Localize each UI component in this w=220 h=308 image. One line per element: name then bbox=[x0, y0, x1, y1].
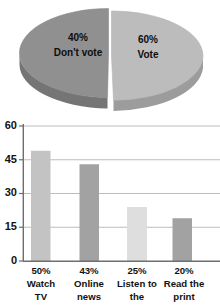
x-label-listen-line1: 25% bbox=[127, 265, 147, 276]
y-axis-tick-labels: 60 45 30 15 0 bbox=[5, 119, 17, 266]
pie-chart-svg: 60% Vote 40% Don't vote bbox=[0, 0, 220, 112]
x-label-group-online-news: 43% Online news bbox=[74, 265, 104, 302]
x-label-listen-line2: Listen to bbox=[117, 278, 157, 289]
x-label-group-listen-to-the: 25% Listen to the bbox=[117, 265, 157, 302]
pie-chart-figure: 60% Vote 40% Don't vote bbox=[0, 0, 220, 112]
x-label-group-read-the-print: 20% Read the print bbox=[164, 265, 205, 302]
x-label-watch-tv-line2: Watch bbox=[27, 278, 56, 289]
x-label-watch-tv-line1: 50% bbox=[31, 265, 51, 276]
bar-online-news bbox=[80, 164, 100, 261]
x-axis-category-labels: 50% Watch TV 43% Online news 25% Listen … bbox=[27, 265, 204, 302]
pie-label-dontvote-percent: 40% bbox=[68, 32, 88, 43]
bar-chart-figure: 60 45 30 15 0 50% Watch TV 43% Online ne… bbox=[0, 112, 220, 308]
pie-label-dontvote-text: Don't vote bbox=[54, 47, 103, 58]
bar-chart-svg: 60 45 30 15 0 50% Watch TV 43% Online ne… bbox=[0, 112, 220, 308]
ytick-label-0: 0 bbox=[11, 254, 17, 266]
pie-label-vote-text: Vote bbox=[138, 49, 159, 60]
x-label-read-line2: Read the bbox=[164, 278, 205, 289]
pie-label-vote-percent: 60% bbox=[138, 34, 158, 45]
ytick-label-45: 45 bbox=[5, 153, 17, 165]
x-label-online-news-line2: Online bbox=[74, 278, 104, 289]
bar-watch-tv bbox=[31, 151, 51, 261]
ytick-label-60: 60 bbox=[5, 119, 17, 131]
x-label-online-news-line1: 43% bbox=[79, 265, 99, 276]
x-label-read-line1: 20% bbox=[174, 265, 194, 276]
ytick-label-30: 30 bbox=[5, 186, 17, 198]
x-label-watch-tv-line3: TV bbox=[35, 291, 48, 302]
x-label-online-news-line3: news bbox=[77, 291, 101, 302]
x-label-listen-line3: the bbox=[130, 291, 144, 302]
bar-read-the-print bbox=[173, 218, 193, 261]
bar-series bbox=[31, 151, 192, 261]
x-label-group-watch-tv: 50% Watch TV bbox=[27, 265, 56, 302]
ytick-label-15: 15 bbox=[5, 220, 17, 232]
gridlines bbox=[23, 126, 220, 227]
x-label-read-line3: print bbox=[173, 291, 195, 302]
bar-listen-to-the bbox=[127, 207, 147, 261]
